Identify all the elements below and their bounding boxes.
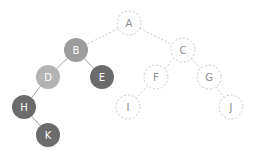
edge-b-e xyxy=(84,59,93,69)
node-label: A xyxy=(126,18,133,29)
edge-c-g xyxy=(191,59,200,69)
node-label: H xyxy=(20,102,28,113)
node-label: I xyxy=(127,102,130,113)
tree-node-f: F xyxy=(144,65,168,89)
node-label: G xyxy=(205,72,213,83)
tree-node-a: A xyxy=(117,11,141,35)
tree-node-j: J xyxy=(219,95,243,119)
tree-node-b: B xyxy=(64,38,88,62)
tree-diagram: ABCDEFGHIJK xyxy=(0,0,253,158)
edge-f-i xyxy=(136,86,148,98)
edge-d-h xyxy=(31,86,40,97)
node-label: K xyxy=(45,130,52,141)
tree-nodes: ABCDEFGHIJK xyxy=(12,11,243,147)
edge-a-b xyxy=(87,28,119,44)
edge-g-j xyxy=(216,87,224,98)
tree-node-i: I xyxy=(116,95,140,119)
edge-a-c xyxy=(140,28,173,44)
edge-c-f xyxy=(164,58,174,68)
node-label: E xyxy=(99,72,105,83)
tree-node-c: C xyxy=(171,38,195,62)
tree-node-h: H xyxy=(12,95,36,119)
node-label: C xyxy=(180,45,187,56)
node-label: B xyxy=(73,45,80,56)
edge-b-d xyxy=(57,58,68,68)
node-label: F xyxy=(153,72,159,83)
tree-node-d: D xyxy=(36,65,60,89)
node-label: D xyxy=(44,72,52,83)
tree-node-e: E xyxy=(90,65,114,89)
tree-node-k: K xyxy=(36,123,60,147)
edge-h-k xyxy=(32,116,40,126)
tree-node-g: G xyxy=(197,65,221,89)
node-label: J xyxy=(229,102,233,113)
